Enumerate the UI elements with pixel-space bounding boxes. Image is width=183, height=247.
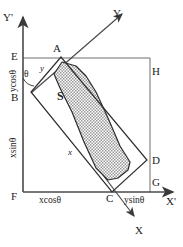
side-label-x: x (68, 148, 72, 157)
projection-label-xsin: xsinθ (9, 138, 19, 158)
point-label-a: A (53, 43, 61, 54)
region-label-s: S (57, 90, 64, 102)
axis-label-x-prime: X' (166, 196, 176, 207)
point-label-b: B (11, 92, 18, 103)
diagram-canvas: Y' X' Y X E A H B D G F C S θ y x ycosθ … (0, 0, 183, 247)
axis-label-y-prime: Y' (3, 12, 13, 23)
angle-label-theta: θ (24, 70, 29, 80)
projection-label-ycos: ycosθ (9, 70, 19, 92)
projection-label-xcos: xcosθ (39, 196, 61, 206)
point-label-d: D (152, 155, 160, 166)
point-label-c: C (106, 193, 113, 204)
axis-label-y-rotated: Y (113, 8, 121, 19)
side-label-y: y (40, 64, 44, 73)
point-label-g: G (152, 177, 160, 188)
point-label-e: E (11, 51, 18, 62)
point-label-h: H (152, 66, 160, 77)
diagram-svg (0, 0, 183, 247)
axis-label-x-rotated: X (135, 225, 143, 236)
projection-label-ysin: ysinθ (124, 196, 144, 206)
point-label-f: F (11, 191, 17, 202)
shaded-region-s (54, 62, 130, 180)
